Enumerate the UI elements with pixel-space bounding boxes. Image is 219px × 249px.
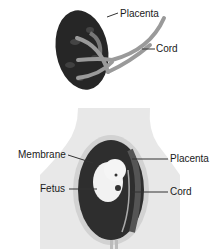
label-placenta-bottom: Placenta xyxy=(170,154,209,164)
label-membrane: Membrane xyxy=(18,150,66,160)
diagram-canvas xyxy=(0,0,219,249)
label-placenta-top: Placenta xyxy=(120,9,159,19)
label-cord-top: Cord xyxy=(156,44,178,54)
label-cord-bottom: Cord xyxy=(170,187,192,197)
placenta-leader-line xyxy=(107,13,118,17)
placenta-illustration xyxy=(49,6,114,94)
label-fetus: Fetus xyxy=(40,184,65,194)
